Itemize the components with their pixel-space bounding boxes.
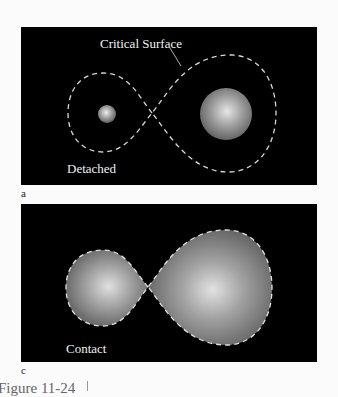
panel-detached: Critical Surface Detached	[21, 27, 317, 185]
sublabel-c: c	[21, 364, 26, 376]
caption-divider	[87, 381, 88, 391]
panel-contact: Contact	[21, 204, 317, 362]
critical-surface-label: Critical Surface	[100, 36, 182, 52]
left-star-contact	[66, 250, 148, 326]
right-star-contact	[148, 230, 272, 345]
contact-label: Contact	[66, 341, 106, 357]
small-star	[98, 105, 116, 123]
large-star	[200, 88, 252, 140]
sublabel-a: a	[21, 187, 26, 199]
figure-caption: Figure 11-24	[0, 380, 75, 397]
contact-diagram	[21, 204, 317, 362]
detached-label: Detached	[67, 161, 116, 177]
